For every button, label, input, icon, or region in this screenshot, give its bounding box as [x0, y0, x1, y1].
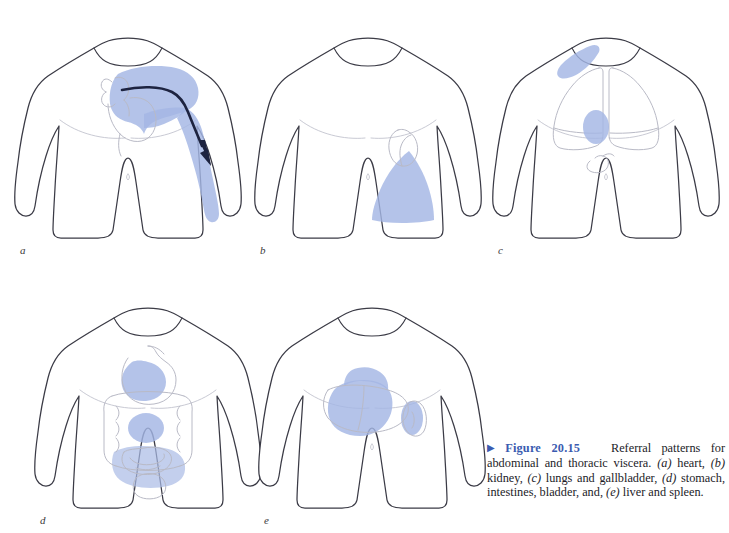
figure-page: a b [0, 0, 729, 533]
panel-e-body-diagram [252, 286, 492, 533]
panel-a-heart: a [8, 16, 248, 266]
panel-label-e: e [264, 514, 269, 526]
panel-d-body-diagram [28, 286, 268, 533]
triangle-right-icon: ▶ [487, 442, 502, 453]
panel-c-body-diagram [486, 16, 726, 266]
panel-label-b: b [260, 244, 266, 256]
figure-number: Figure 20.15 [505, 441, 580, 455]
panel-label-c: c [498, 244, 503, 256]
panel-a-body-diagram [8, 16, 248, 266]
panel-label-a: a [20, 244, 26, 256]
panel-b-body-diagram [248, 16, 488, 266]
panel-d-stomach-intestines-bladder: d [28, 286, 268, 533]
panel-label-d: d [40, 514, 46, 526]
panel-e-liver-spleen: e [252, 286, 492, 533]
panel-c-lungs-gallbladder: c [486, 16, 726, 266]
figure-caption: ▶Figure 20.15 Referral patterns for abdo… [487, 441, 725, 500]
panel-b-kidney: b [248, 16, 488, 266]
